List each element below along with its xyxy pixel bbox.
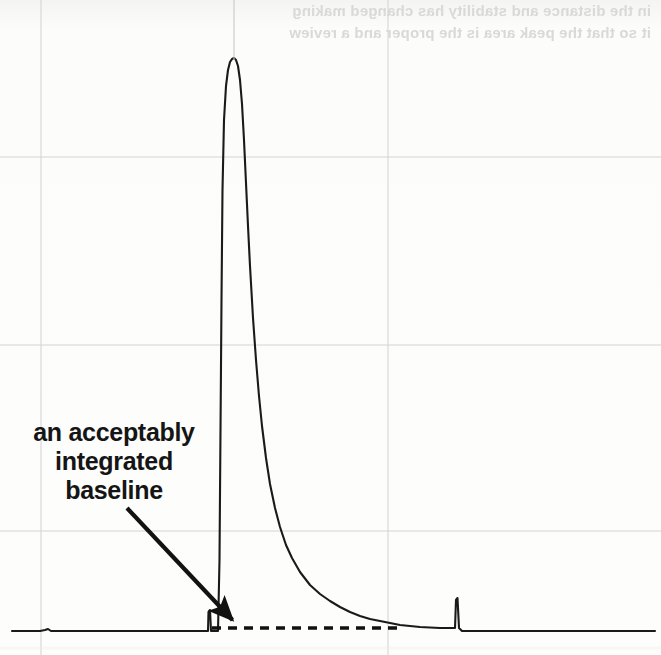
gridlines — [0, 0, 661, 655]
chromatogram-plot — [0, 0, 661, 655]
annotation-line-1: an acceptably — [8, 418, 220, 447]
annotation-line-3: baseline — [8, 476, 220, 505]
annotation-arrow — [127, 508, 232, 620]
figure-canvas: in the distance and stability has change… — [0, 0, 661, 655]
annotation-line-2: integrated — [8, 447, 220, 476]
annotation-label: an acceptably integrated baseline — [8, 418, 220, 505]
